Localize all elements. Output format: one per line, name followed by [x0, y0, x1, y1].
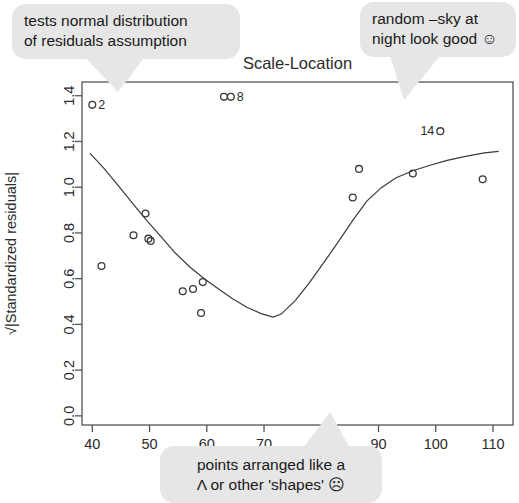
- annotation-callout-normality: tests normal distribution of residuals a…: [12, 4, 240, 59]
- data-point-label: 8: [237, 90, 244, 104]
- data-point: [142, 210, 149, 217]
- y-axis-tick-label: 0.2: [61, 360, 77, 380]
- annotation-callout-shapes: points arranged like a Λ or other 'shape…: [160, 446, 382, 503]
- data-point: [227, 93, 234, 100]
- y-axis-tick-label: 1.4: [61, 86, 77, 106]
- data-point-label: 14: [420, 124, 434, 138]
- data-point: [356, 165, 363, 172]
- data-point: [479, 176, 486, 183]
- data-point: [98, 263, 105, 270]
- y-axis-title: √|Standardized residuals|: [3, 172, 19, 335]
- data-point: [221, 93, 228, 100]
- callout-tail-random: [390, 56, 440, 100]
- y-axis-tick-label: 0.0: [61, 406, 77, 426]
- data-point-label: 2: [98, 98, 105, 112]
- chart-layer: 4050607080901001100.00.20.40.60.81.01.21…: [3, 50, 513, 452]
- x-axis-tick-label: 100: [424, 436, 448, 452]
- y-axis-tick-label: 0.8: [61, 223, 77, 243]
- annotation-callout-random: random –sky at night look good ☺: [360, 2, 516, 57]
- y-axis-tick-label: 1.0: [61, 177, 77, 197]
- data-point: [89, 101, 96, 108]
- data-point: [349, 194, 356, 201]
- y-axis-tick-label: 1.2: [61, 131, 77, 151]
- plot-frame: [82, 82, 513, 425]
- y-axis-tick-label: 0.4: [61, 314, 77, 334]
- x-axis-tick-label: 50: [141, 436, 157, 452]
- data-point: [130, 232, 137, 239]
- y-axis-tick-label: 0.6: [61, 269, 77, 289]
- data-point: [190, 286, 197, 293]
- data-point: [198, 310, 205, 317]
- data-point: [179, 288, 186, 295]
- x-axis-tick-label: 40: [84, 436, 100, 452]
- loess-smooth-line: [90, 151, 499, 317]
- x-axis-tick-label: 110: [481, 436, 504, 452]
- chart-title: Scale-Location: [243, 54, 352, 72]
- data-point: [437, 128, 444, 135]
- data-point: [199, 279, 206, 286]
